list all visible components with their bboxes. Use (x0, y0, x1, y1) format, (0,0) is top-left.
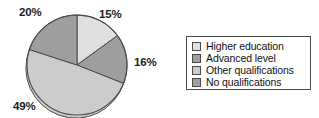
legend-item-label: Advanced level (206, 52, 276, 64)
legend-item-other-qualifications: Other qualifications (192, 64, 306, 76)
legend-item-no-qualifications: No qualifications (192, 76, 306, 88)
pie-label-no-qualifications: 20% (19, 7, 41, 19)
legend-swatch-icon (192, 78, 201, 87)
pie-label-higher-education: 15% (99, 9, 121, 21)
chart-legend: Higher education Advanced level Other qu… (186, 36, 311, 90)
pie-label-advanced-level: 16% (134, 57, 156, 69)
legend-item-label: Other qualifications (206, 64, 294, 76)
pie-chart-plot-area: 15% 16% 49% 20% (0, 0, 180, 118)
legend-item-higher-education: Higher education (192, 40, 306, 52)
legend-item-label: No qualifications (206, 76, 281, 88)
legend-item-advanced-level: Advanced level (192, 52, 306, 64)
legend-swatch-icon (192, 66, 201, 75)
legend-swatch-icon (192, 42, 201, 51)
pie-label-other-qualifications: 49% (13, 101, 35, 113)
legend-swatch-icon (192, 54, 201, 63)
pie-chart-figure: 15% 16% 49% 20% Higher education Advance… (0, 0, 319, 118)
legend-item-label: Higher education (206, 40, 284, 52)
